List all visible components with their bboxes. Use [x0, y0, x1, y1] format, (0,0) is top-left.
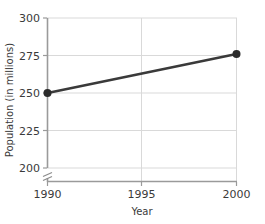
- y-tick-label-200: 200: [19, 162, 40, 175]
- y-axis-title: Population (in millions): [4, 43, 15, 157]
- x-tick-label-1990: 1990: [34, 188, 62, 201]
- x-tick-label-2000: 2000: [223, 188, 251, 201]
- y-tick-label-275: 275: [19, 50, 40, 63]
- chart-canvas: 300 275 250 225 200 1990 1995 2000 Year …: [0, 0, 265, 224]
- x-tick-label-1995: 1995: [128, 188, 156, 201]
- y-tick-label-225: 225: [19, 125, 40, 138]
- x-tick-marks: [48, 182, 237, 186]
- x-axis-title: Year: [130, 206, 153, 217]
- data-point-1990: [44, 89, 52, 97]
- line-chart: 300 275 250 225 200 1990 1995 2000 Year …: [0, 0, 265, 224]
- y-tick-label-300: 300: [19, 12, 40, 25]
- y-tick-label-250: 250: [19, 87, 40, 100]
- data-point-2000: [233, 50, 241, 58]
